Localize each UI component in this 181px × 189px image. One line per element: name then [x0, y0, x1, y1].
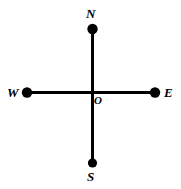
south-point-marker: [88, 158, 97, 167]
west-point-marker: [22, 87, 32, 97]
origin-label: O: [94, 95, 102, 106]
west-label: W: [7, 86, 19, 99]
south-label: S: [87, 170, 94, 183]
east-label: E: [164, 86, 173, 99]
axes-canvas: [0, 0, 181, 189]
north-point-marker: [87, 24, 97, 34]
east-point-marker: [150, 87, 160, 97]
compass-axes-diagram: N S W E O: [0, 0, 181, 189]
north-label: N: [86, 7, 95, 20]
